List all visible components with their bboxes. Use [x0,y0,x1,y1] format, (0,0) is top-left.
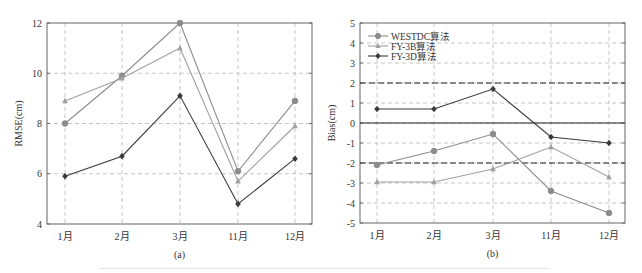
triangle-marker [177,45,183,51]
grid [47,23,312,224]
y-tick-label: -4 [347,198,355,209]
y-tick-label: 8 [37,118,42,129]
circle-marker [292,98,298,104]
x-tick-label: 12月 [285,231,305,242]
diamond-marker [292,155,298,162]
y-tick-label: -2 [347,158,355,169]
x-tick-label: 12月 [599,230,619,241]
y-axis-label: Bias(cm) [326,105,338,142]
circle-marker [606,210,612,216]
legend: WESTDC算法FY-3B算法FY-3D算法 [368,31,450,62]
x-tick-label: 3月 [486,230,501,241]
y-tick-label: -1 [347,138,355,149]
y-tick-label: 3 [350,58,355,69]
panel-label: (b) [487,248,499,260]
circle-marker [431,148,437,154]
legend-label: FY-3B算法 [391,41,436,52]
diamond-marker [374,106,380,113]
x-tick-label: 1月 [370,230,385,241]
x-tick-label: 2月 [115,231,130,242]
circle-marker [177,20,183,26]
circle-marker [235,168,241,174]
rmse-chart-plot: 46810121月2月3月11月12月RMSE(cm)(a) [0,0,321,273]
circle-marker [375,33,380,38]
y-tick-label: 6 [37,168,42,179]
y-tick-label: -5 [347,218,355,229]
y-tick-label: 0 [350,118,355,129]
circle-marker [548,188,554,194]
y-tick-label: 5 [350,18,355,29]
y-tick-label: 12 [32,18,42,29]
cropped-caption [100,268,550,269]
diamond-marker [431,106,437,113]
y-tick-label: 4 [37,219,42,230]
diamond-marker [235,201,241,208]
x-tick-label: 2月 [427,230,442,241]
x-tick-label: 11月 [541,230,561,241]
y-tick-label: 10 [32,68,42,79]
bias-chart: -5-4-3-2-10123451月2月3月11月12月Bias(cm)(b)W… [321,0,642,273]
triangle-marker [548,144,554,150]
diamond-marker [375,53,380,59]
x-tick-label: 11月 [228,231,248,242]
panel-label: (a) [174,249,185,261]
x-tick-label: 1月 [58,231,73,242]
diamond-marker [606,140,612,147]
bias-chart-plot: -5-4-3-2-10123451月2月3月11月12月Bias(cm)(b)W… [321,0,642,273]
y-tick-label: 2 [350,78,355,89]
y-tick-label: 4 [350,38,355,49]
circle-marker [490,131,496,137]
x-tick-label: 3月 [173,231,188,242]
y-tick-label: 1 [350,98,355,109]
y-tick-label: -3 [347,178,355,189]
rmse-chart: 46810121月2月3月11月12月RMSE(cm)(a) [0,0,321,273]
legend-label: WESTDC算法 [391,31,450,42]
circle-marker [374,162,380,168]
circle-marker [62,121,68,127]
legend-label: FY-3D算法 [391,51,437,62]
y-axis-label: RMSE(cm) [13,100,25,146]
